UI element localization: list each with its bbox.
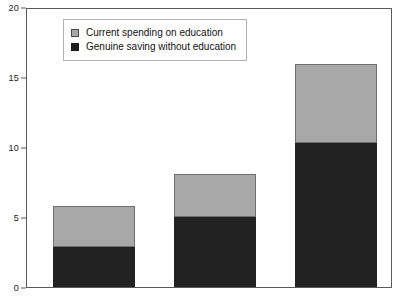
bar-segment-genuine-saving-1 — [53, 247, 135, 287]
bar-group-2 — [174, 174, 256, 287]
bar-group-3 — [295, 64, 377, 287]
legend-swatch-icon-black — [71, 43, 79, 51]
y-tick-label-20: 20 — [9, 4, 19, 13]
y-tick-label-10: 10 — [9, 144, 19, 153]
bar-segment-current-spending-3 — [295, 64, 377, 143]
bar-segment-current-spending-1 — [53, 206, 135, 247]
legend-label-current-spending: Current spending on education — [86, 28, 223, 38]
legend-item-current-spending: Current spending on education — [71, 26, 236, 40]
bar-group-1 — [53, 206, 135, 287]
y-tick-label-15: 15 — [9, 74, 19, 83]
y-tick-label-5: 5 — [14, 214, 19, 223]
legend-label-genuine-saving: Genuine saving without education — [86, 42, 236, 52]
y-axis: 20 15 10 5 0 — [0, 0, 26, 301]
stacked-bar-chart: 20 15 10 5 0 Current spending on e — [0, 0, 399, 301]
bar-segment-genuine-saving-2 — [174, 217, 256, 287]
y-tick-label-0: 0 — [14, 284, 19, 293]
legend-item-genuine-saving: Genuine saving without education — [71, 40, 236, 54]
x-axis — [27, 291, 391, 301]
legend: Current spending on education Genuine sa… — [63, 19, 247, 61]
bar-segment-genuine-saving-3 — [295, 143, 377, 287]
bar-segment-current-spending-2 — [174, 174, 256, 217]
legend-swatch-icon-gray — [71, 29, 79, 37]
